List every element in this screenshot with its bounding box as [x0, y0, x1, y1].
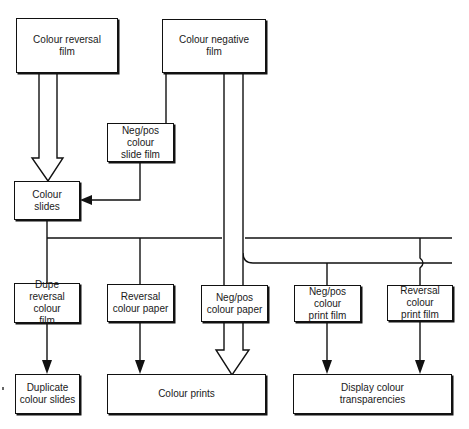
node-duplicate-slides: Duplicate colour slides — [15, 374, 80, 414]
hollow-arrow-negative-to-prints — [216, 73, 249, 375]
hollow-arrow-reversal-to-slides — [32, 73, 63, 181]
scan-mark — [2, 387, 4, 390]
node-reversal-print-film: Reversal colour print film — [387, 285, 453, 321]
node-colour-reversal-film: Colour reversal film — [16, 18, 118, 73]
node-display-transparencies: Display colour transparencies — [293, 374, 452, 414]
arrowhead-to-display-1 — [322, 360, 332, 374]
node-colour-slides: Colour slides — [14, 181, 80, 220]
node-reversal-colour-paper: Reversal colour paper — [107, 284, 174, 322]
arrowhead-to-duplicates — [42, 360, 52, 374]
node-negpos-slide-film: Neg/pos colour slide film — [107, 123, 174, 162]
node-negpos-print-film: Neg/pos colour print film — [294, 285, 361, 322]
node-colour-prints: Colour prints — [107, 374, 266, 414]
arrowhead-to-slides — [80, 195, 92, 205]
arrowhead-to-display-2 — [415, 360, 425, 374]
node-negpos-colour-paper: Neg/pos colour paper — [201, 285, 268, 322]
arrowhead-to-prints — [135, 360, 145, 374]
node-dupe-reversal-film: Dupe reversal colour film — [14, 283, 80, 323]
node-colour-negative-film: Colour negative film — [162, 19, 266, 73]
